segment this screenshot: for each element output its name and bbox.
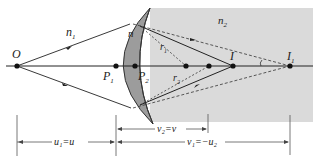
point-I — [230, 63, 235, 68]
dim-v1: v₁=−u₂ — [187, 136, 217, 147]
optics-diagram: O n1 n2 n P1 P2 I I1 r1 r2 u₁=u v₂=v v₁=… — [0, 0, 318, 168]
dim-v2: v₂=v — [157, 123, 177, 134]
ray-lower-incident — [17, 66, 131, 108]
label-n1: n1 — [66, 25, 76, 41]
label-O: O — [12, 47, 21, 61]
label-P1: P1 — [102, 69, 114, 85]
center-C1 — [183, 63, 188, 68]
diagram-canvas: O n1 n2 n P1 P2 I I1 r1 r2 u₁=u v₂=v v₁=… — [0, 0, 318, 168]
label-n-lens: n — [128, 27, 134, 39]
point-O — [14, 63, 19, 68]
ray-upper-incident — [17, 24, 130, 66]
point-P2 — [132, 63, 137, 68]
point-P1 — [113, 63, 118, 68]
center-C2 — [206, 63, 211, 68]
label-P2: P2 — [137, 69, 149, 85]
dim-u1: u₁=u — [54, 136, 74, 147]
